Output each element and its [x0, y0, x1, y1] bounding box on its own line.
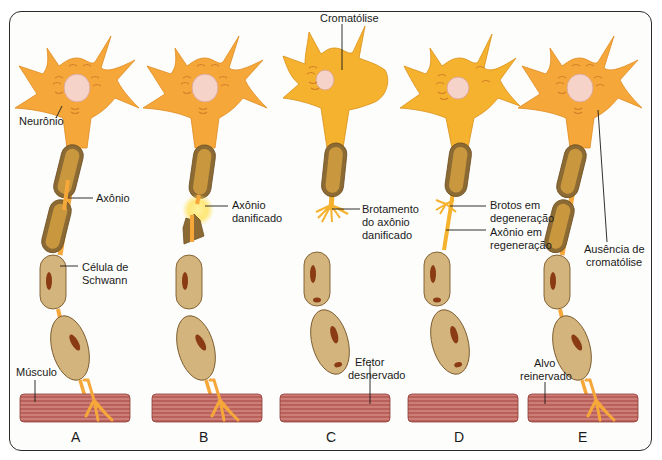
label-sprouting-3: danificado	[362, 229, 412, 242]
label-sprouting-2: do axônio	[362, 216, 410, 229]
label-degenerating-sprouts-2: degeneração	[490, 212, 554, 225]
panel-letter-b: B	[199, 429, 208, 445]
label-no-chromatolysis-1: Ausência de	[584, 243, 645, 256]
label-no-chromatolysis-2: cromatólise	[586, 256, 642, 269]
label-schwann-cell-2: Schwann	[82, 274, 127, 287]
label-chromatolysis: Cromatólise	[320, 12, 379, 25]
label-reinnervated-target-1: Alvo	[534, 357, 555, 370]
label-damaged-axon-1: Axônio	[232, 199, 266, 212]
panel-letter-a: A	[71, 429, 80, 445]
label-denervated-effector-2: desnervado	[348, 369, 406, 382]
label-regenerating-axon-2: regeneração	[490, 239, 552, 252]
panel-letter-c: C	[326, 429, 336, 445]
label-sprouting-1: Brotamento	[362, 203, 419, 216]
panel-b	[143, 36, 267, 422]
label-denervated-effector-1: Efetor	[355, 356, 384, 369]
panel-letter-d: D	[454, 429, 464, 445]
label-reinnervated-target-2: reinervado	[520, 370, 572, 383]
label-schwann-cell-1: Célula de	[82, 261, 128, 274]
label-damaged-axon-2: danificado	[232, 212, 282, 225]
panel-letter-e: E	[578, 429, 587, 445]
diagram-art	[0, 0, 662, 460]
label-muscle: Músculo	[16, 366, 57, 379]
panel-a	[15, 36, 139, 422]
label-neuron: Neurônio	[19, 115, 64, 128]
label-axon: Axônio	[96, 192, 130, 205]
label-regenerating-axon-1: Axônio em	[490, 226, 542, 239]
label-degenerating-sprouts-1: Brotos em	[490, 199, 540, 212]
